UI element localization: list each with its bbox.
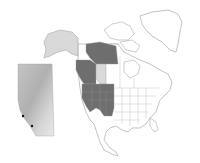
- inset-point-2: [31, 125, 33, 127]
- alaska: [44, 30, 78, 58]
- north-america-map: [0, 0, 200, 163]
- alberta-inset: [18, 64, 54, 136]
- greenland: [140, 10, 182, 52]
- florida: [150, 118, 158, 132]
- inset-point-1: [22, 115, 24, 117]
